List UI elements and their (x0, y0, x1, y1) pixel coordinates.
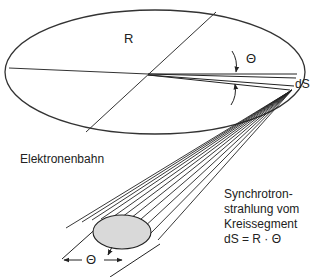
angle-arrow-upper (232, 51, 237, 72)
segment-label: dS (295, 77, 310, 91)
note-line-2: strahlung vom (224, 202, 299, 217)
angle-label-bottom: Θ (86, 253, 96, 267)
orbit-label: Elektronenbahn (20, 152, 104, 166)
angle-arrow-lower (231, 84, 236, 105)
radius-label: R (124, 32, 133, 46)
segment-rays (148, 74, 297, 90)
synchrotron-note: Synchrotron- strahlung vom Kreissegment … (224, 187, 299, 247)
note-line-3: Kreissegment (224, 217, 299, 232)
note-line-4: dS = R · Θ (224, 232, 299, 247)
angle-label-top: Θ (246, 52, 256, 66)
note-line-1: Synchrotron- (224, 187, 299, 202)
beam-direction-arrow (108, 247, 112, 255)
orbit-chord (9, 68, 148, 74)
beam-cross-section (93, 215, 151, 249)
